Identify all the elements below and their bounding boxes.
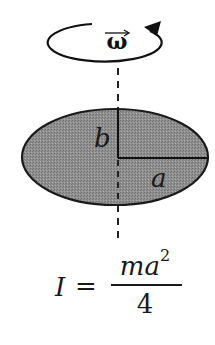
- formula-lhs: I: [55, 272, 65, 302]
- semi-major-label: a: [151, 165, 167, 191]
- fraction-bar: [111, 284, 182, 286]
- inertia-formula: I = ma2 4: [55, 252, 185, 332]
- formula-numerator-text: ma: [120, 251, 160, 281]
- formula-numerator: ma2: [108, 250, 182, 281]
- formula-equals: =: [75, 271, 97, 301]
- omega-symbol: ω: [101, 30, 133, 52]
- formula-denominator: 4: [108, 289, 182, 319]
- formula-exponent: 2: [160, 246, 170, 265]
- semi-minor-label: b: [94, 125, 111, 151]
- ellipse-inertia-diagram: ω b a I = ma2 4: [0, 0, 215, 345]
